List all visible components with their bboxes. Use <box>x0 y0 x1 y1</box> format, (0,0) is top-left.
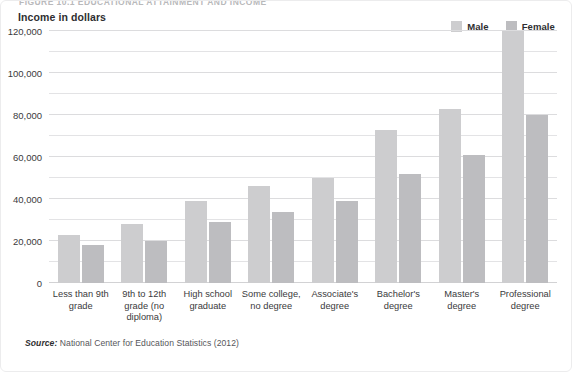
bar-female[interactable] <box>526 115 548 283</box>
bar-group <box>176 31 240 283</box>
bar-group <box>49 31 113 283</box>
bar-male[interactable] <box>248 186 270 283</box>
x-axis-label: Less than 9th grade <box>49 289 113 324</box>
x-axis-label: Bachelor's degree <box>367 289 431 324</box>
bar-group <box>430 31 494 283</box>
bar-group <box>113 31 177 283</box>
y-tick-label: 120,000 <box>8 26 42 37</box>
plot-area: 020,00040,00060,00080,000100,000120,000 <box>49 31 557 283</box>
bar-male[interactable] <box>58 235 80 283</box>
x-axis-category-labels: Less than 9th grade9th to 12th grade (no… <box>49 289 557 324</box>
figure-running-head: FIGURE 10.1 EDUCATIONAL ATTAINMENT AND I… <box>19 0 267 6</box>
y-tick-label: 100,000 <box>8 68 42 79</box>
bar-male[interactable] <box>375 130 397 283</box>
x-axis-label: High school graduate <box>176 289 240 324</box>
y-tick-label: 20,000 <box>13 236 42 247</box>
bar-female[interactable] <box>145 241 167 283</box>
y-tick-label: 40,000 <box>13 194 42 205</box>
bar-group <box>494 31 558 283</box>
bar-group <box>240 31 304 283</box>
bar-male[interactable] <box>502 31 524 283</box>
x-axis-label: 9th to 12th grade (no diploma) <box>113 289 177 324</box>
bar-female[interactable] <box>399 174 421 283</box>
bar-group <box>367 31 431 283</box>
bar-group <box>303 31 367 283</box>
bar-female[interactable] <box>272 212 294 283</box>
bar-male[interactable] <box>185 201 207 283</box>
bar-male[interactable] <box>439 109 461 283</box>
bar-female[interactable] <box>82 245 104 283</box>
source-label: Source: <box>25 338 57 348</box>
bar-male[interactable] <box>312 178 334 283</box>
x-axis-label: Associate's degree <box>303 289 367 324</box>
x-axis-label: Professional degree <box>494 289 558 324</box>
y-tick-label: 60,000 <box>13 152 42 163</box>
y-axis-title: Income in dollars <box>18 11 106 23</box>
bar-groups <box>49 31 557 283</box>
x-axis-label: Master's degree <box>430 289 494 324</box>
bar-female[interactable] <box>209 222 231 283</box>
y-tick-label: 80,000 <box>13 110 42 121</box>
source-text: National Center for Education Statistics… <box>57 338 239 348</box>
source-note: Source: National Center for Education St… <box>25 338 239 348</box>
bar-male[interactable] <box>121 224 143 283</box>
bar-female[interactable] <box>336 201 358 283</box>
figure-container: FIGURE 10.1 EDUCATIONAL ATTAINMENT AND I… <box>0 0 572 372</box>
y-tick-label: 0 <box>37 278 42 289</box>
x-axis-label: Some college, no degree <box>240 289 304 324</box>
bar-female[interactable] <box>463 155 485 283</box>
